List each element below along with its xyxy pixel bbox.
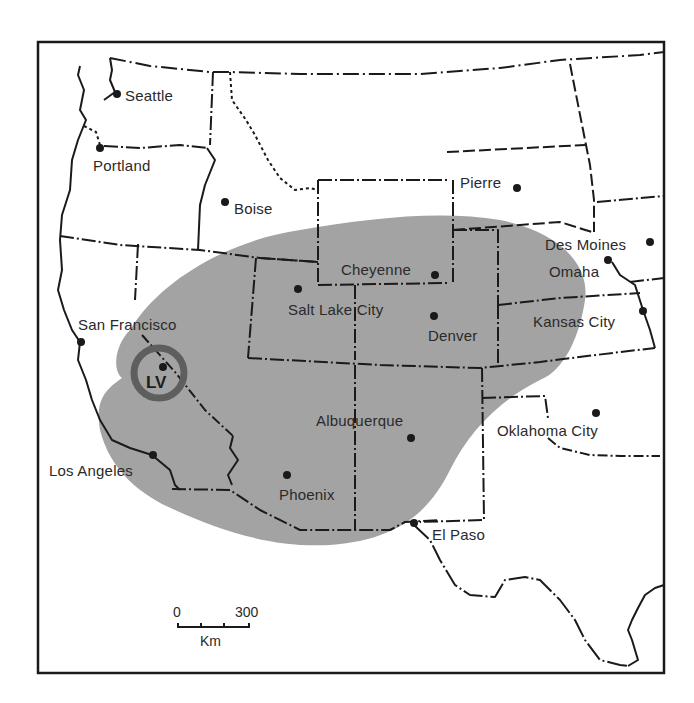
city-label-des-moines: Des Moines xyxy=(545,237,626,252)
city-dot-salt-lake-city xyxy=(294,285,302,293)
city-label-albuquerque: Albuquerque xyxy=(316,413,403,428)
city-dot-phoenix xyxy=(283,471,291,479)
city-label-oklahoma-city: Oklahoma City xyxy=(497,423,598,438)
city-label-kansas-city: Kansas City xyxy=(533,314,615,329)
city-label-portland: Portland xyxy=(93,158,150,173)
scale-end-label: 300 xyxy=(235,605,258,619)
city-dot-portland xyxy=(96,144,104,152)
city-dot-boise xyxy=(221,198,229,206)
city-label-san-francisco: San Francisco xyxy=(78,317,176,332)
scale-bar xyxy=(178,623,249,627)
city-label-los-angeles: Los Angeles xyxy=(49,463,133,478)
city-dot-albuquerque xyxy=(407,434,415,442)
scale-unit-label: Km xyxy=(200,634,221,648)
city-dot-des-moines xyxy=(646,238,654,246)
city-label-denver: Denver xyxy=(428,328,478,343)
city-dot-los-angeles xyxy=(149,451,157,459)
map-canvas xyxy=(0,0,694,703)
city-label-omaha: Omaha xyxy=(549,264,599,279)
city-label-el-paso: El Paso xyxy=(432,527,485,542)
city-label-phoenix: Phoenix xyxy=(279,487,335,502)
city-dot-oklahoma-city xyxy=(592,409,600,417)
city-dot-pierre xyxy=(513,184,521,192)
city-label-salt-lake-city: Salt Lake City xyxy=(288,302,383,317)
city-label-pierre: Pierre xyxy=(460,175,501,190)
city-dot-omaha xyxy=(604,256,612,264)
city-label-cheyenne: Cheyenne xyxy=(341,262,411,277)
canada-border xyxy=(110,52,664,74)
scale-start-label: 0 xyxy=(173,605,181,619)
city-label-boise: Boise xyxy=(234,201,273,216)
city-dot-kansas-city xyxy=(639,307,647,315)
city-dot-el-paso xyxy=(410,519,418,527)
city-dot-seattle xyxy=(113,90,121,98)
highlight-label-lv: LV xyxy=(146,374,166,391)
city-label-seattle: Seattle xyxy=(125,88,173,103)
city-dot-san-francisco xyxy=(77,338,85,346)
city-dot-las-vegas xyxy=(159,363,167,371)
city-dot-cheyenne xyxy=(431,271,439,279)
city-dot-denver xyxy=(430,312,438,320)
